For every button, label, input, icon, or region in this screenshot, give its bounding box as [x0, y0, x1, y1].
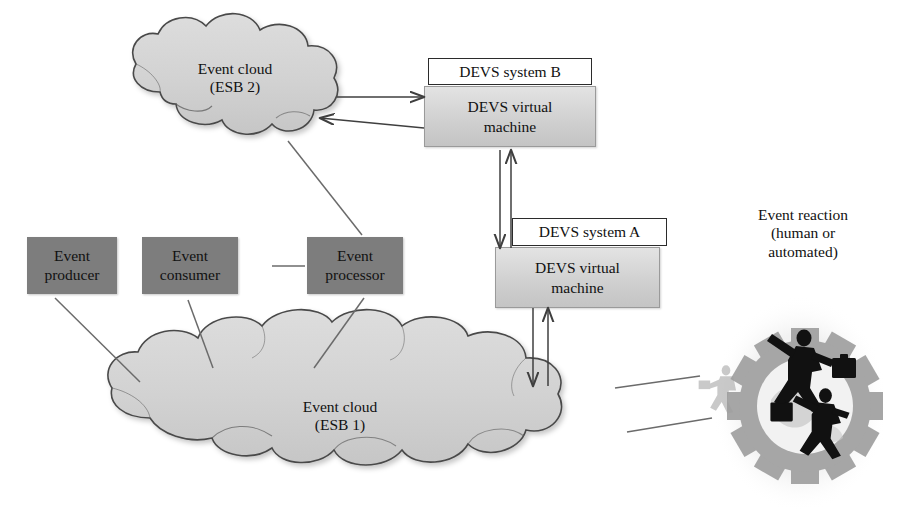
arrow-producer-to-esb1: [55, 298, 140, 382]
arrow-processor-to-esb1: [314, 298, 364, 368]
arrow-devsb-to-esb2: [320, 118, 424, 128]
arrow-reaction-to-esb1: [627, 418, 712, 432]
arrow-esb1-to-reaction: [615, 376, 700, 388]
arrows-layer: [0, 0, 914, 522]
diagram-canvas: Event cloud (ESB 2) Event cloud (ESB 1) …: [0, 0, 914, 522]
arrow-esb1-to-consumer: [188, 300, 213, 368]
arrow-processor-to-esb2: [288, 141, 362, 235]
